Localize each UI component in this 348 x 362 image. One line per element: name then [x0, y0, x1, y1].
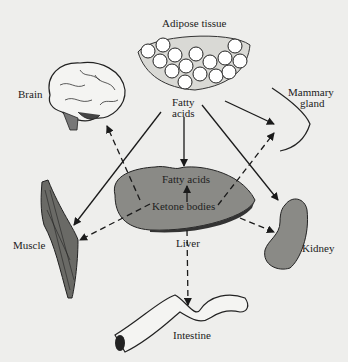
intestine-label: Intestine	[173, 329, 211, 341]
adipose-tissue-icon	[138, 36, 250, 90]
liver-fatty-acids-label: Fatty acids	[162, 173, 210, 185]
fatty-acids-source-label-2: acids	[172, 107, 195, 119]
kidney-icon	[265, 199, 308, 269]
mammary-label-2: gland	[300, 97, 324, 109]
liver-ketone-bodies-label: Ketone bodies	[152, 200, 215, 212]
liver-label: Liver	[176, 237, 200, 249]
kidney-label: Kidney	[302, 242, 334, 254]
intestine-icon	[115, 295, 248, 352]
muscle-icon	[41, 180, 78, 298]
muscle-label: Muscle	[13, 239, 45, 251]
adipose-tissue-label: Adipose tissue	[162, 17, 226, 29]
brain-label: Brain	[18, 88, 42, 100]
brain-icon	[49, 62, 125, 130]
